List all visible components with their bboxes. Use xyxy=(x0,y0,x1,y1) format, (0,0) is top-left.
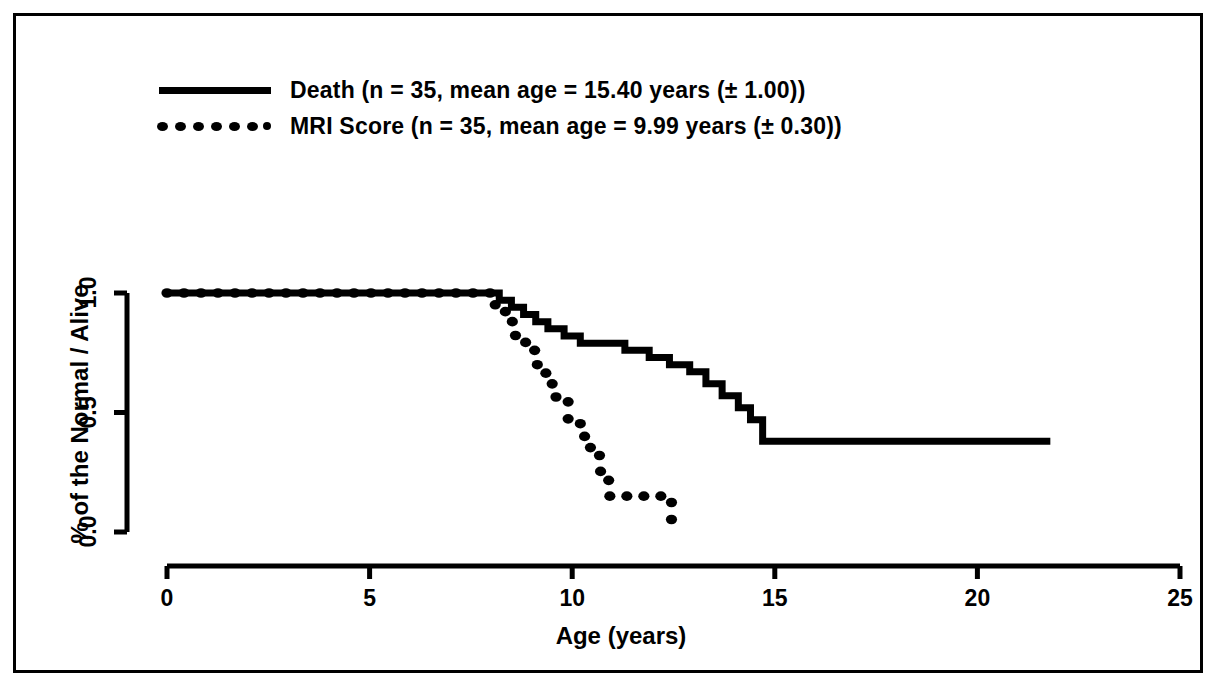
series-dot xyxy=(540,368,551,378)
series-dot xyxy=(575,419,586,429)
series-dot xyxy=(331,288,342,298)
series-dot xyxy=(382,288,393,298)
series-layer xyxy=(161,288,1050,524)
series-dot xyxy=(399,288,410,298)
x-axis-title-text: Age (years) xyxy=(526,622,687,649)
series-dot xyxy=(532,360,543,370)
x-tick-label: 25 xyxy=(1150,585,1210,612)
series-dot xyxy=(520,338,531,348)
series-dot xyxy=(195,288,206,298)
series-dot xyxy=(550,392,561,402)
series-dot xyxy=(484,288,495,298)
x-tick-label: 10 xyxy=(542,585,602,612)
series-dot xyxy=(229,288,240,298)
series-line-0 xyxy=(167,293,1050,441)
series-dot xyxy=(594,451,605,461)
series-dot xyxy=(595,467,606,477)
x-tick-label: 0 xyxy=(137,585,197,612)
series-dot xyxy=(467,288,478,298)
series-dot xyxy=(490,300,501,310)
series-dot xyxy=(416,288,427,298)
series-dot xyxy=(433,288,444,298)
series-dot xyxy=(529,346,540,356)
series-dot xyxy=(666,515,677,525)
x-tick-label: 5 xyxy=(340,585,400,612)
series-dot xyxy=(161,288,172,298)
series-dot xyxy=(563,397,574,407)
series-dot xyxy=(638,491,649,501)
series-dot xyxy=(604,491,615,501)
series-dot xyxy=(563,414,574,424)
series-dot xyxy=(603,476,614,486)
series-dot xyxy=(500,307,511,317)
series-dot xyxy=(297,288,308,298)
series-dots-1 xyxy=(161,288,677,524)
series-dot xyxy=(585,443,596,453)
series-dot xyxy=(510,331,521,341)
series-dot xyxy=(263,288,274,298)
series-dot xyxy=(507,317,518,327)
figure-root: Death (n = 35, mean age = 15.40 years (±… xyxy=(0,0,1212,680)
series-dot xyxy=(547,379,558,389)
x-axis-title: Age (years) xyxy=(0,622,1212,650)
series-dot xyxy=(178,288,189,298)
x-tick-label: 15 xyxy=(745,585,805,612)
series-dot xyxy=(212,288,223,298)
series-dot xyxy=(246,288,257,298)
series-dot xyxy=(348,288,359,298)
series-dot xyxy=(621,491,632,501)
series-dot xyxy=(666,498,677,508)
series-dot xyxy=(365,288,376,298)
series-dot xyxy=(280,288,291,298)
series-dot xyxy=(655,491,666,501)
y-axis-title: % of the Normal / Alive xyxy=(66,184,94,644)
axes-layer xyxy=(114,293,1180,579)
x-tick-label: 20 xyxy=(947,585,1007,612)
series-dot xyxy=(450,288,461,298)
plot-canvas xyxy=(0,0,1212,680)
series-dot xyxy=(314,288,325,298)
series-dot xyxy=(579,432,590,442)
